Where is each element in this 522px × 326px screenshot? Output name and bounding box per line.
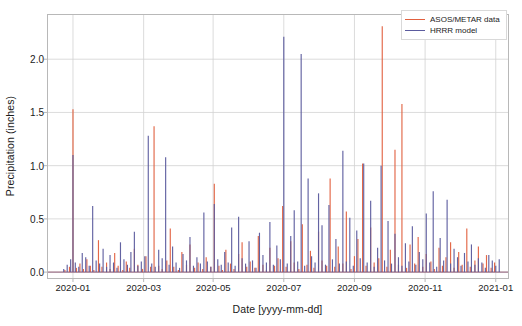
x-tick-label: 2020-09 bbox=[337, 282, 372, 293]
plot-canvas bbox=[0, 0, 522, 326]
legend-item-asos-metar: ASOS/METAR data bbox=[405, 14, 503, 24]
legend: ASOS/METAR data HRRR model bbox=[401, 10, 507, 40]
y-tick-label: 1.5 bbox=[18, 107, 44, 118]
series-asos-metar bbox=[48, 26, 509, 272]
y-axis-title: Precipitation (inches) bbox=[2, 14, 18, 278]
x-tick-label: 2020-05 bbox=[196, 282, 231, 293]
legend-swatch-asos-metar bbox=[405, 19, 425, 20]
series-hrrr bbox=[48, 37, 509, 272]
y-axis-title-text: Precipitation (inches) bbox=[4, 96, 16, 196]
x-tick-label: 2020-03 bbox=[126, 282, 161, 293]
axes-frame bbox=[48, 15, 509, 279]
gridlines bbox=[48, 15, 509, 279]
x-axis-title-text: Date [yyyy-mm-dd] bbox=[47, 303, 508, 315]
x-tick-label: 2020-11 bbox=[408, 282, 442, 293]
x-tick-label: 2021-01 bbox=[478, 282, 513, 293]
legend-label-hrrr: HRRR model bbox=[430, 26, 477, 35]
legend-item-hrrr: HRRR model bbox=[405, 25, 503, 35]
y-tick-label: 2.0 bbox=[18, 54, 44, 65]
legend-swatch-hrrr bbox=[405, 30, 425, 31]
y-tick-label: 0.0 bbox=[18, 267, 44, 278]
x-tick-label: 2020-07 bbox=[266, 282, 301, 293]
y-tick-label: 1.0 bbox=[18, 160, 44, 171]
legend-label-asos-metar: ASOS/METAR data bbox=[430, 15, 500, 24]
precipitation-figure: 0.00.51.01.52.0 2020-012020-032020-05202… bbox=[0, 0, 522, 326]
series-layer bbox=[48, 26, 509, 272]
y-tick-label: 0.5 bbox=[18, 213, 44, 224]
x-tick-label: 2020-01 bbox=[56, 282, 91, 293]
